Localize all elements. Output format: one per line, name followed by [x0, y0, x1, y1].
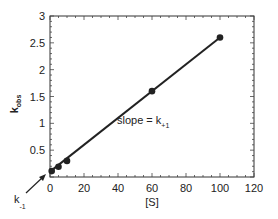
- x-tick-label: 80: [180, 182, 192, 194]
- x-tick-label: 120: [245, 182, 263, 194]
- k-minus-1-label: k-1: [14, 193, 26, 210]
- y-tick-label: 2: [39, 64, 45, 76]
- x-tick-label: 60: [146, 182, 158, 194]
- slope-annotation: slope = k+1: [117, 114, 169, 129]
- fit-line: [50, 37, 220, 171]
- data-series: [48, 34, 223, 174]
- y-tick-label: 1.5: [30, 91, 45, 103]
- plot-axes: [50, 16, 254, 177]
- plot-frame: [50, 16, 254, 177]
- y-tick-label: 0.5: [30, 144, 45, 156]
- y-axis-label: kobs: [8, 95, 22, 114]
- data-point: [55, 164, 62, 171]
- x-tick-label: 40: [112, 182, 124, 194]
- y-tick-label: 1: [39, 117, 45, 129]
- x-tick-label: 0: [47, 182, 53, 194]
- y-tick-label: 3: [39, 10, 45, 22]
- axis-ticks: 0204060801001200.511.522.53: [30, 10, 263, 194]
- x-tick-label: 100: [211, 182, 229, 194]
- x-tick-label: 20: [78, 182, 90, 194]
- x-axis-label: [S]: [145, 196, 158, 208]
- data-point: [217, 34, 224, 41]
- data-point: [64, 158, 71, 165]
- data-point: [149, 88, 156, 95]
- data-point: [48, 168, 55, 175]
- kobs-vs-substrate-chart: 0204060801001200.511.522.53 [S]kobs slop…: [0, 0, 278, 219]
- arrow-shaft: [26, 177, 43, 193]
- y-tick-label: 2.5: [30, 37, 45, 49]
